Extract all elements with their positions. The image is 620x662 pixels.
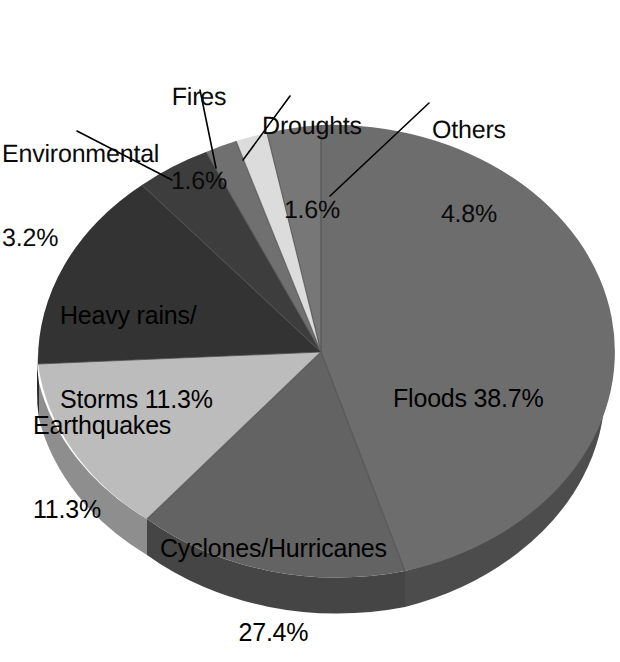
- pie-label-fires-value: 1.6%: [151, 167, 247, 195]
- pie-label-heavy-rains-storms-line1: Heavy rains/: [60, 301, 213, 329]
- pie-label-fires-name: Fires: [151, 83, 247, 111]
- pie-label-others: Others 4.8%: [421, 60, 517, 284]
- pie-label-floods-text: Floods 38.7%: [393, 384, 543, 412]
- pie-label-environmental-name: Environmental: [2, 140, 159, 168]
- pie-label-earthquakes-name: Earthquakes: [33, 411, 171, 439]
- pie-label-cyclones-name: Cyclones/Hurricanes: [160, 534, 387, 562]
- pie-label-droughts: Droughts 1.6%: [249, 56, 375, 280]
- pie-chart-figure: Environmental 3.2% Fires 1.6% Droughts 1…: [0, 0, 620, 662]
- pie-label-earthquakes: Earthquakes 11.3%: [33, 355, 171, 579]
- pie-label-fires: Fires 1.6%: [151, 27, 247, 251]
- pie-label-others-name: Others: [421, 116, 517, 144]
- pie-label-cyclones: Cyclones/Hurricanes 27.4%: [160, 478, 387, 662]
- pie-label-droughts-name: Droughts: [249, 112, 375, 140]
- pie-label-floods: Floods 38.7%: [393, 328, 543, 468]
- pie-label-cyclones-value: 27.4%: [160, 618, 387, 646]
- pie-label-droughts-value: 1.6%: [249, 196, 375, 224]
- pie-label-others-value: 4.8%: [421, 200, 517, 228]
- pie-label-earthquakes-value: 11.3%: [33, 495, 171, 523]
